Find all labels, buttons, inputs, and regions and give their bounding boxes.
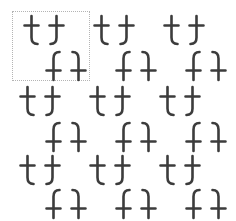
glyph-outline	[14, 154, 40, 188]
glyph-outline	[136, 48, 162, 82]
glyph-t-mirror-v	[40, 186, 66, 220]
glyph-t-rotate-180	[136, 186, 162, 220]
glyph-t-mirror-h	[44, 14, 70, 48]
glyph-outline	[40, 186, 66, 220]
glyph-t-identity	[84, 154, 110, 188]
glyph-outline	[66, 119, 92, 153]
glyph-outline	[136, 119, 162, 153]
glyph-outline	[44, 14, 70, 48]
glyph-outline	[206, 119, 232, 153]
glyph-t-mirror-v	[40, 48, 66, 82]
glyph-outline	[158, 14, 184, 48]
glyph-outline	[110, 154, 136, 188]
glyph-outline	[206, 186, 232, 220]
glyph-t-mirror-v	[40, 119, 66, 153]
glyph-t-identity	[14, 154, 40, 188]
glyph-t-mirror-v	[110, 119, 136, 153]
glyph-t-identity	[158, 14, 184, 48]
glyph-t-mirror-h	[40, 154, 66, 188]
glyph-outline	[110, 85, 136, 119]
glyph-t-mirror-v	[180, 119, 206, 153]
glyph-outline	[180, 48, 206, 82]
glyph-outline	[66, 48, 92, 82]
glyph-outline	[180, 85, 206, 119]
glyph-t-mirror-h	[110, 154, 136, 188]
glyph-outline	[40, 85, 66, 119]
glyph-t-rotate-180	[66, 119, 92, 153]
glyph-t-mirror-v	[180, 48, 206, 82]
glyph-outline	[154, 154, 180, 188]
glyph-outline	[184, 14, 210, 48]
glyph-t-identity	[84, 85, 110, 119]
glyph-t-rotate-180	[66, 186, 92, 220]
glyph-outline	[88, 14, 114, 48]
glyph-t-mirror-h	[110, 85, 136, 119]
glyph-t-rotate-180	[136, 48, 162, 82]
glyph-outline	[66, 186, 92, 220]
glyph-t-mirror-v	[110, 186, 136, 220]
glyph-outline	[40, 119, 66, 153]
glyph-outline	[110, 186, 136, 220]
glyph-outline	[154, 85, 180, 119]
glyph-t-rotate-180	[66, 48, 92, 82]
glyph-t-identity	[18, 14, 44, 48]
glyph-outline	[206, 48, 232, 82]
glyph-outline	[14, 85, 40, 119]
glyph-t-mirror-h	[180, 85, 206, 119]
glyph-t-rotate-180	[206, 119, 232, 153]
glyph-t-identity	[154, 154, 180, 188]
glyph-outline	[136, 186, 162, 220]
glyph-t-mirror-h	[184, 14, 210, 48]
glyph-t-mirror-h	[180, 154, 206, 188]
glyph-outline	[180, 154, 206, 188]
glyph-outline	[110, 119, 136, 153]
glyph-t-rotate-180	[206, 48, 232, 82]
glyph-t-rotate-180	[136, 119, 162, 153]
symmetry-pattern-canvas	[0, 0, 236, 221]
glyph-t-identity	[14, 85, 40, 119]
glyph-outline	[110, 48, 136, 82]
glyph-t-identity	[88, 14, 114, 48]
glyph-outline	[40, 154, 66, 188]
glyph-outline	[84, 154, 110, 188]
glyph-outline	[40, 48, 66, 82]
glyph-outline	[84, 85, 110, 119]
glyph-outline	[114, 14, 140, 48]
glyph-outline	[180, 119, 206, 153]
glyph-t-identity	[154, 85, 180, 119]
glyph-t-rotate-180	[206, 186, 232, 220]
glyph-t-mirror-h	[114, 14, 140, 48]
glyph-t-mirror-v	[180, 186, 206, 220]
glyph-t-mirror-h	[40, 85, 66, 119]
glyph-outline	[180, 186, 206, 220]
glyph-t-mirror-v	[110, 48, 136, 82]
glyph-outline	[18, 14, 44, 48]
